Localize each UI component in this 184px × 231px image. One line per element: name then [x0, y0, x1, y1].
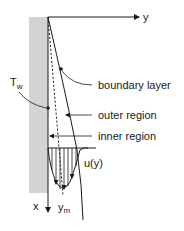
heated-wall — [29, 17, 48, 193]
wall-jet-boundary-layer-diagram: y x boundary layer Tw outer region inner… — [0, 0, 184, 231]
velocity-vectors — [52, 148, 76, 189]
velocity-profile-label: u(y) — [84, 157, 103, 169]
boundary-layer-edge — [48, 17, 83, 220]
wall-temperature-label: Tw — [10, 76, 23, 91]
wall-temperature-marker — [46, 106, 50, 110]
outer-region-label: outer region — [98, 109, 157, 121]
boundary-layer-marker — [59, 67, 63, 71]
inner-region-label: inner region — [98, 130, 156, 142]
x-axis-label: x — [33, 200, 39, 212]
boundary-layer-label: boundary layer — [98, 79, 171, 91]
y-axis-label: y — [143, 11, 149, 23]
max-velocity-location-label: ym — [58, 201, 71, 215]
boundary-layer-leader — [62, 71, 92, 85]
max-velocity-locus — [48, 17, 63, 195]
